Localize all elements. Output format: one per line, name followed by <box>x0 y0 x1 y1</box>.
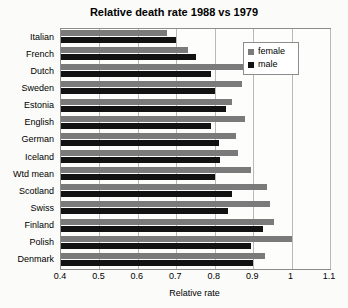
bar-group <box>61 115 330 132</box>
x-axis-tick-label: 1.1 <box>323 272 336 281</box>
y-axis-label: Wtd mean <box>13 170 54 179</box>
bar-male <box>61 174 215 180</box>
y-axis-label: Iceland <box>25 153 54 162</box>
y-axis-label: German <box>21 135 54 144</box>
y-axis-label: Estonia <box>24 101 54 110</box>
x-axis-tick-label: 0.6 <box>131 272 144 281</box>
legend-swatch-icon <box>248 49 254 55</box>
y-axis-label: Polish <box>29 238 54 247</box>
bar-group <box>61 132 330 149</box>
bar-group <box>61 166 330 183</box>
bar-female <box>61 30 167 36</box>
y-axis-label: Italian <box>30 33 54 42</box>
bar-female <box>61 47 188 53</box>
bar-female <box>61 253 265 259</box>
chart-container: Relative death rate 1988 vs 1979 Italian… <box>0 0 348 308</box>
bar-female <box>61 81 242 87</box>
bar-male <box>61 88 215 94</box>
bar-female <box>61 150 238 156</box>
x-axis-tick-label: 0.7 <box>169 272 182 281</box>
bar-male <box>61 106 226 112</box>
y-axis-label: Scotland <box>19 187 54 196</box>
bar-male <box>61 243 251 249</box>
bar-group <box>61 183 330 200</box>
chart-legend: femalemale <box>243 42 299 75</box>
legend-label: female <box>258 47 285 56</box>
bar-group <box>61 98 330 115</box>
bar-male <box>61 140 219 146</box>
bar-female <box>61 219 274 225</box>
bar-female <box>61 236 292 242</box>
bar-female <box>61 99 232 105</box>
bar-group <box>61 80 330 97</box>
y-axis-label: Finland <box>24 221 54 230</box>
bar-female <box>61 201 270 207</box>
bar-male <box>61 157 220 163</box>
y-axis-category-labels: ItalianFrenchDutchSwedenEstoniaEnglishGe… <box>0 28 57 268</box>
bar-group <box>61 149 330 166</box>
legend-item: male <box>248 59 294 70</box>
x-axis-tick-label: 0.8 <box>207 272 220 281</box>
x-axis-title: Relative rate <box>60 288 329 298</box>
chart-title: Relative death rate 1988 vs 1979 <box>0 6 348 18</box>
bar-group <box>61 252 330 269</box>
bar-female <box>61 64 265 70</box>
bar-female <box>61 184 267 190</box>
y-axis-label: Sweden <box>21 84 54 93</box>
x-axis-tick-label: 1 <box>288 272 293 281</box>
bar-female <box>61 133 236 139</box>
bar-male <box>61 71 211 77</box>
x-axis-tick-label: 0.9 <box>246 272 259 281</box>
bar-male <box>61 208 228 214</box>
bar-male <box>61 260 253 266</box>
y-axis-label: Denmark <box>17 255 54 264</box>
y-axis-label: Dutch <box>30 67 54 76</box>
y-axis-label: French <box>26 50 54 59</box>
bar-female <box>61 167 251 173</box>
x-axis-tick-label: 0.5 <box>92 272 105 281</box>
bar-group <box>61 218 330 235</box>
gridline <box>330 29 331 269</box>
legend-swatch-icon <box>248 62 254 68</box>
bar-group <box>61 200 330 217</box>
bar-male <box>61 123 211 129</box>
bar-group <box>61 235 330 252</box>
bar-male <box>61 226 263 232</box>
legend-label: male <box>258 60 278 69</box>
legend-item: female <box>248 46 294 57</box>
bar-male <box>61 37 176 43</box>
bar-female <box>61 116 245 122</box>
x-axis-tick-label: 0.4 <box>54 272 67 281</box>
bar-male <box>61 54 196 60</box>
bar-male <box>61 191 232 197</box>
y-axis-label: English <box>24 118 54 127</box>
x-axis-tick-labels: 0.40.50.60.70.80.911.1 <box>0 272 348 286</box>
y-axis-label: Swiss <box>30 204 54 213</box>
